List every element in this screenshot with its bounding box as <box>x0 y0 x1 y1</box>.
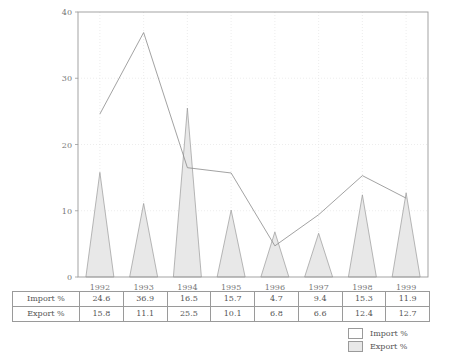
gridlines <box>78 12 428 277</box>
table-cell: 36.9 <box>123 292 167 307</box>
svg-text:10: 10 <box>62 207 72 216</box>
table-cell: 25.5 <box>167 307 211 322</box>
chart-canvas: 010203040 199219931994199519961997199819… <box>0 0 449 300</box>
table-row: Export %15.811.125.510.16.86.612.412.7 <box>13 307 430 322</box>
table-row-label: Import % <box>13 292 80 307</box>
legend-swatch-icon <box>348 328 363 339</box>
table-row: Import %24.636.916.515.74.79.415.311.9 <box>13 292 430 307</box>
table-cell: 11.9 <box>386 292 430 307</box>
svg-text:0: 0 <box>67 273 72 282</box>
legend-swatch-icon <box>348 341 363 352</box>
table-cell: 15.7 <box>211 292 255 307</box>
chart-page: 010203040 199219931994199519961997199819… <box>0 0 449 358</box>
chart-legend: Import %Export % <box>348 327 408 353</box>
svg-text:40: 40 <box>62 8 72 17</box>
table-cell: 10.1 <box>211 307 255 322</box>
legend-label: Export % <box>370 342 407 351</box>
svg-text:20: 20 <box>62 141 72 150</box>
data-table: Import %24.636.916.515.74.79.415.311.9Ex… <box>12 291 430 322</box>
table-cell: 6.6 <box>298 307 342 322</box>
table-cell: 9.4 <box>298 292 342 307</box>
legend-item: Export % <box>348 340 408 353</box>
table-cell: 15.3 <box>342 292 386 307</box>
legend-label: Import % <box>370 329 408 338</box>
table-cell: 15.8 <box>80 307 124 322</box>
legend-item: Import % <box>348 327 408 340</box>
table-cell: 12.4 <box>342 307 386 322</box>
table-cell: 6.8 <box>255 307 299 322</box>
table-cell: 4.7 <box>255 292 299 307</box>
svg-text:30: 30 <box>62 74 72 83</box>
table-row-label: Export % <box>13 307 80 322</box>
table-cell: 11.1 <box>123 307 167 322</box>
table-cell: 24.6 <box>80 292 124 307</box>
table-cell: 16.5 <box>167 292 211 307</box>
export-series-area <box>86 108 420 277</box>
y-axis-tick-labels: 010203040 <box>62 8 78 282</box>
table-cell: 12.7 <box>386 307 430 322</box>
